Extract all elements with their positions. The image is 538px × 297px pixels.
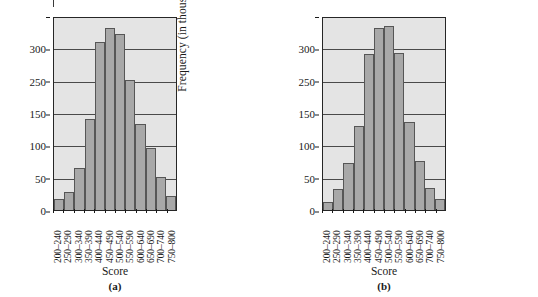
bars-a bbox=[54, 18, 176, 210]
x-tick-label: 400–440 bbox=[363, 213, 373, 263]
histogram-bar bbox=[105, 28, 115, 210]
x-tick-label: 550–590 bbox=[125, 213, 135, 263]
y-tick-label: 50 bbox=[304, 173, 315, 184]
x-tick-label: 300–340 bbox=[74, 213, 84, 263]
x-tick-label: 700–740 bbox=[156, 213, 166, 263]
histogram-bar bbox=[333, 189, 343, 210]
x-tick-cell: 300–340 bbox=[74, 213, 84, 263]
x-axis-title-a: Score bbox=[53, 265, 177, 278]
panel-caption-b: (b) bbox=[322, 280, 446, 293]
x-tick-cell: 550–590 bbox=[125, 213, 135, 263]
x-axis-ticks-b: 200–240250–290300–340350–390400–440450–4… bbox=[322, 213, 446, 263]
x-tick-label: 300–340 bbox=[343, 213, 353, 263]
x-tick-cell: 600–640 bbox=[136, 213, 146, 263]
plot-area-a bbox=[53, 17, 177, 211]
x-tick-cell: 450–490 bbox=[105, 213, 115, 263]
x-tick-label: 450–490 bbox=[105, 213, 115, 263]
x-tick-cell: 350–390 bbox=[353, 213, 363, 263]
x-tick-cell: 650–690 bbox=[146, 213, 156, 263]
histogram-bar bbox=[374, 28, 384, 210]
x-tick-cell: 600–640 bbox=[405, 213, 415, 263]
x-axis-title-b: Score bbox=[322, 265, 446, 278]
plot-area-b bbox=[322, 17, 446, 211]
histogram-bar bbox=[404, 122, 414, 210]
histogram-bar bbox=[125, 80, 135, 210]
y-axis-title-b: Frequency (in thousands) bbox=[175, 0, 189, 128]
y-tick-mark bbox=[46, 179, 50, 180]
x-tick-label: 500–540 bbox=[115, 213, 125, 263]
x-axis-ticks-a: 200–240250–290300–340350–390400–440450–4… bbox=[53, 213, 177, 263]
x-tick-cell: 350–390 bbox=[84, 213, 94, 263]
x-tick-cell: 550–590 bbox=[394, 213, 404, 263]
histogram-bar bbox=[394, 53, 404, 210]
y-tick-mark bbox=[315, 211, 319, 212]
y-tick-mark bbox=[315, 146, 319, 147]
y-tick-label: 100 bbox=[30, 141, 47, 152]
y-tick-label: 250 bbox=[30, 76, 47, 87]
x-tick-label: 450–490 bbox=[374, 213, 384, 263]
histogram-bar bbox=[74, 168, 84, 210]
histogram-bar bbox=[156, 177, 166, 210]
x-tick-label: 400–440 bbox=[94, 213, 104, 263]
histogram-bar bbox=[415, 161, 425, 210]
figure-two-histograms: Frequency (in thousands) 050100150250300… bbox=[0, 0, 538, 297]
x-tick-label: 650–690 bbox=[415, 213, 425, 263]
y-axis-ticks-b: 050100150250300 bbox=[285, 0, 319, 297]
x-tick-cell: 700–740 bbox=[156, 213, 166, 263]
histogram-bar bbox=[115, 34, 125, 210]
y-tick-label: 50 bbox=[35, 173, 46, 184]
x-tick-cell: 500–540 bbox=[115, 213, 125, 263]
y-tick-mark bbox=[46, 82, 50, 83]
x-tick-label: 750–800 bbox=[436, 213, 446, 263]
x-tick-label: 600–640 bbox=[136, 213, 146, 263]
y-tick-mark bbox=[315, 17, 319, 18]
x-tick-label: 250–290 bbox=[63, 213, 73, 263]
panel-b: Frequency (in thousands) 050100150250300… bbox=[269, 0, 538, 297]
x-tick-cell: 750–800 bbox=[167, 213, 177, 263]
y-tick-label: 0 bbox=[310, 206, 316, 217]
histogram-bar bbox=[425, 188, 435, 210]
y-tick-label: 150 bbox=[299, 109, 316, 120]
x-tick-cell: 200–240 bbox=[322, 213, 332, 263]
y-tick-label: 300 bbox=[30, 44, 47, 55]
histogram-bar bbox=[64, 192, 74, 210]
panel-caption-a: (a) bbox=[53, 280, 177, 293]
x-tick-cell: 200–240 bbox=[53, 213, 63, 263]
x-tick-cell: 500–540 bbox=[384, 213, 394, 263]
histogram-bar bbox=[384, 26, 394, 210]
x-tick-label: 700–740 bbox=[425, 213, 435, 263]
x-tick-label: 350–390 bbox=[353, 213, 363, 263]
x-tick-cell: 650–690 bbox=[415, 213, 425, 263]
y-tick-mark bbox=[46, 17, 50, 18]
histogram-bar bbox=[354, 126, 364, 210]
x-tick-label: 250–290 bbox=[332, 213, 342, 263]
y-tick-mark bbox=[315, 82, 319, 83]
bars-b bbox=[323, 18, 445, 210]
x-tick-label: 350–390 bbox=[84, 213, 94, 263]
y-tick-mark bbox=[315, 49, 319, 50]
histogram-bar bbox=[343, 163, 353, 210]
y-tick-mark bbox=[46, 211, 50, 212]
histogram-bar bbox=[95, 42, 105, 210]
x-tick-label: 200–240 bbox=[322, 213, 332, 263]
y-tick-mark bbox=[315, 179, 319, 180]
x-tick-label: 550–590 bbox=[394, 213, 404, 263]
x-tick-label: 500–540 bbox=[384, 213, 394, 263]
panel-a: Frequency (in thousands) 050100150250300… bbox=[0, 0, 269, 297]
x-tick-label: 650–690 bbox=[146, 213, 156, 263]
x-tick-cell: 250–290 bbox=[63, 213, 73, 263]
x-tick-label: 750–800 bbox=[167, 213, 177, 263]
scan-artifact bbox=[53, 0, 54, 7]
y-tick-label: 100 bbox=[299, 141, 316, 152]
y-tick-mark bbox=[46, 49, 50, 50]
x-tick-cell: 400–440 bbox=[363, 213, 373, 263]
y-tick-mark bbox=[315, 114, 319, 115]
histogram-bar bbox=[146, 148, 156, 210]
histogram-bar bbox=[85, 119, 95, 210]
y-tick-label: 250 bbox=[299, 76, 316, 87]
x-tick-cell: 400–440 bbox=[94, 213, 104, 263]
x-tick-cell: 450–490 bbox=[374, 213, 384, 263]
x-tick-cell: 700–740 bbox=[425, 213, 435, 263]
x-tick-label: 200–240 bbox=[53, 213, 63, 263]
histogram-bar bbox=[364, 54, 374, 210]
